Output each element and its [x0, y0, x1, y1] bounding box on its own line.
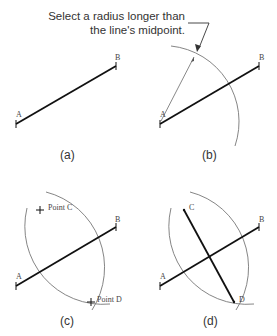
panel-d	[160, 192, 259, 310]
label-point-c: Point C	[48, 203, 72, 212]
bisector-construction-diagram	[0, 0, 277, 336]
label-b-panel-b: B	[259, 53, 264, 62]
label-b-panel-c: B	[115, 215, 120, 224]
label-c: C	[189, 203, 194, 212]
caption-b: (b)	[202, 148, 217, 162]
label-a-panel-d: A	[160, 272, 166, 281]
callout-line-1: Select a radius longer than	[40, 9, 185, 23]
panel-a	[16, 62, 116, 128]
callout-line-2: the line's midpoint.	[40, 23, 185, 37]
label-a-panel-b: A	[160, 110, 166, 119]
point-d-dot	[233, 301, 235, 303]
panel-b	[160, 23, 259, 146]
line-ab	[16, 66, 116, 124]
label-b-panel-a: B	[115, 53, 120, 62]
label-point-d: Point D	[97, 295, 122, 304]
label-d: D	[239, 295, 245, 304]
point-c-dot	[183, 209, 185, 211]
perpendicular-bisector-cd	[184, 210, 234, 302]
caption-d: (d)	[203, 314, 218, 328]
callout-leader	[188, 23, 209, 48]
label-a-panel-c: A	[16, 272, 22, 281]
caption-c: (c)	[60, 314, 74, 328]
arc-from-a	[171, 46, 239, 146]
label-b-panel-d: B	[259, 215, 264, 224]
caption-a: (a)	[60, 148, 75, 162]
label-a-panel-a: A	[16, 110, 22, 119]
line-ab	[160, 66, 259, 124]
callout-text: Select a radius longer than the line's m…	[40, 9, 185, 37]
